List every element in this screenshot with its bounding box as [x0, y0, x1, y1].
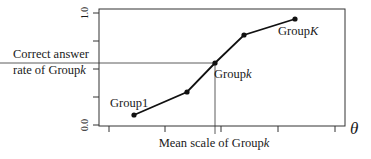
irt-group-chart: 1.0 0.0 Group1 Groupk GroupK Correct ans…	[0, 0, 371, 159]
y-tick-label-top: 1.0	[80, 7, 90, 19]
point-group1	[131, 112, 136, 117]
annotation-correct-line2: rate of Groupk	[13, 63, 86, 77]
y-tick-label-bottom: 0.0	[80, 119, 90, 131]
annotation-mean-scale: Mean scale of Groupk	[159, 136, 270, 150]
y-axis	[93, 13, 99, 125]
x-axis-label-theta: θ	[350, 119, 358, 138]
point-4	[241, 32, 246, 37]
label-groupk: Groupk	[214, 67, 252, 81]
point-2	[184, 89, 189, 94]
label-groupK: GroupK	[278, 24, 319, 38]
label-group1: Group1	[110, 96, 148, 110]
annotation-correct-line1: Correct answer	[13, 47, 90, 61]
x-axis	[109, 126, 335, 132]
point-groupk	[212, 60, 217, 65]
point-groupK	[292, 16, 297, 21]
